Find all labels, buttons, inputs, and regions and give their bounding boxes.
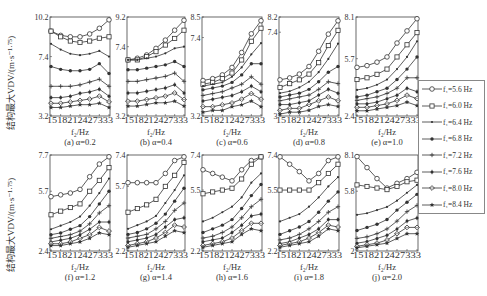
- legend-label: f₁=6.0 Hz: [443, 101, 472, 110]
- subplot-d: 151821242733337.48.2f₂/Hz(d) α=0.8: [268, 13, 343, 147]
- svg-text:7.7: 7.7: [39, 151, 49, 160]
- legend-item: f₁=5.6 Hz: [421, 83, 472, 95]
- svg-text:(e) α=1.0: (e) α=1.0: [371, 137, 402, 147]
- svg-text:f₂/Hz: f₂/Hz: [223, 262, 241, 272]
- legend-label: f₁=8.0 Hz: [443, 184, 472, 193]
- svg-text:5.7: 5.7: [39, 187, 49, 196]
- svg-text:1518212427333: 1518212427333: [199, 117, 266, 125]
- marker-star-icon: [421, 200, 443, 210]
- marker-dot-icon: [421, 134, 443, 144]
- svg-text:1518212427333: 1518212427333: [353, 252, 422, 260]
- svg-text:1518212427333: 1518212427333: [353, 117, 422, 125]
- svg-text:7.4: 7.4: [116, 151, 126, 160]
- marker-circle-icon: [421, 84, 443, 94]
- svg-text:f₂/Hz: f₂/Hz: [71, 262, 89, 272]
- svg-text:(g) α=1.4: (g) α=1.4: [140, 272, 173, 282]
- legend-item: f₁=8.0 Hz: [421, 182, 472, 194]
- legend-item: f₁=6.4 Hz: [421, 116, 472, 128]
- svg-text:f₂/Hz: f₂/Hz: [71, 127, 89, 137]
- svg-text:(d) α=0.8: (d) α=0.8: [293, 137, 325, 147]
- svg-text:2.2: 2.2: [116, 247, 126, 256]
- svg-text:3.2: 3.2: [116, 112, 126, 121]
- svg-text:3.2: 3.2: [39, 112, 49, 121]
- svg-text:f₂/Hz: f₂/Hz: [147, 262, 165, 272]
- svg-text:(i) α=1.8: (i) α=1.8: [294, 272, 324, 282]
- svg-text:1518212427333: 1518212427333: [276, 117, 343, 125]
- legend-item: f₁=6.0 Hz: [421, 100, 472, 112]
- svg-text:10.2: 10.2: [35, 13, 49, 22]
- legend-item: f₁=7.2 Hz: [421, 149, 472, 161]
- subplot-f: 15182124273332.45.77.7f₂/Hz(f) α=1.2: [39, 151, 114, 282]
- svg-text:2.2: 2.2: [191, 247, 201, 256]
- subplot-c: 15182124273333.27.48.5f₂/Hz(c) α=0.6: [191, 13, 266, 147]
- subplot-i: 15182124273332.25.57.4f₂/Hz(i) α=1.8: [268, 151, 343, 282]
- svg-text:f₂/Hz: f₂/Hz: [300, 262, 318, 272]
- svg-text:1518212427333: 1518212427333: [47, 117, 114, 125]
- marker-diamond-icon: [421, 183, 443, 193]
- svg-text:1518212427333: 1518212427333: [199, 252, 266, 260]
- svg-text:3: 3: [274, 112, 278, 121]
- y-axis-label-row1: 结构最大VDV/(m·s⁻¹·⁷⁵): [4, 36, 17, 130]
- legend-label: f₁=7.2 Hz: [443, 151, 472, 160]
- legend: f₁=5.6 Hz f₁=6.0 Hz f₁=6.4 Hz f₁=6.8 Hz …: [418, 80, 485, 214]
- svg-text:(a) α=0.2: (a) α=0.2: [64, 137, 95, 147]
- svg-text:5.5: 5.5: [191, 186, 201, 195]
- svg-text:f₂/Hz: f₂/Hz: [378, 127, 396, 137]
- legend-label: f₁=7.6 Hz: [443, 167, 472, 176]
- svg-text:(c) α=0.6: (c) α=0.6: [216, 137, 247, 147]
- legend-item: f₁=7.6 Hz: [421, 166, 472, 178]
- svg-text:5.8: 5.8: [345, 187, 355, 196]
- marker-dot-small-icon: [421, 117, 443, 127]
- svg-text:(j) α=2.0: (j) α=2.0: [372, 272, 402, 282]
- svg-text:1518212427333: 1518212427333: [276, 252, 343, 260]
- svg-text:1518212427333: 1518212427333: [47, 252, 114, 260]
- marker-square-icon: [421, 101, 443, 111]
- legend-label: f₁=6.8 Hz: [443, 134, 472, 143]
- legend-item: f₁=8.4 Hz: [421, 199, 472, 211]
- legend-label: f₁=6.4 Hz: [443, 118, 472, 127]
- svg-text:7.4: 7.4: [191, 34, 201, 43]
- svg-text:f₂/Hz: f₂/Hz: [223, 127, 241, 137]
- svg-text:5.5: 5.5: [268, 186, 278, 195]
- figure-canvas: 15182124273333.27.410.2f₂/Hz(a) α=0.2151…: [0, 0, 487, 296]
- svg-text:f₂/Hz: f₂/Hz: [300, 127, 318, 137]
- svg-text:5.7: 5.7: [116, 182, 126, 191]
- svg-text:8.2: 8.2: [268, 13, 278, 22]
- svg-text:2: 2: [351, 247, 355, 256]
- svg-text:f₂/Hz: f₂/Hz: [378, 262, 396, 272]
- svg-text:f₂/Hz: f₂/Hz: [147, 127, 165, 137]
- svg-text:8.1: 8.1: [345, 13, 355, 22]
- subplot-e: 15182124273332.45.78.1f₂/Hz(e) α=1.0: [345, 13, 422, 147]
- svg-text:7.4: 7.4: [268, 151, 278, 160]
- svg-text:7.4: 7.4: [116, 43, 126, 52]
- subplot-h: 15182124273332.25.57.4f₂/Hz(h) α=1.6: [191, 151, 266, 282]
- y-axis-label-row2: 结构最大VDV/(m·s⁻¹·⁷⁵): [4, 178, 17, 272]
- legend-item: f₁=6.8 Hz: [421, 133, 472, 145]
- svg-text:(b) α=0.4: (b) α=0.4: [140, 137, 173, 147]
- marker-dot-star-icon: [421, 167, 443, 177]
- svg-text:3.2: 3.2: [191, 112, 201, 121]
- svg-text:8.1: 8.1: [345, 151, 355, 160]
- legend-label: f₁=8.4 Hz: [443, 200, 472, 209]
- svg-text:9.2: 9.2: [116, 13, 126, 22]
- svg-text:7.4: 7.4: [268, 28, 278, 37]
- svg-text:7.4: 7.4: [191, 151, 201, 160]
- legend-label: f₁=5.6 Hz: [443, 85, 472, 94]
- svg-text:5.7: 5.7: [345, 55, 355, 64]
- subplot-a: 15182124273333.27.410.2f₂/Hz(a) α=0.2: [35, 13, 114, 147]
- svg-text:2.4: 2.4: [39, 247, 49, 256]
- subplot-j: 151821242733325.88.1f₂/Hz(j) α=2.0: [345, 151, 422, 282]
- subplot-g: 15182124273332.25.77.4f₂/Hz(g) α=1.4: [116, 151, 189, 282]
- svg-text:7.4: 7.4: [39, 53, 49, 62]
- svg-text:8.5: 8.5: [191, 13, 201, 22]
- svg-text:1518212427333: 1518212427333: [124, 252, 189, 260]
- svg-text:(f) α=1.2: (f) α=1.2: [65, 272, 96, 282]
- svg-text:2.2: 2.2: [268, 247, 278, 256]
- marker-plus-icon: [421, 150, 443, 160]
- svg-text:2.4: 2.4: [345, 112, 355, 121]
- svg-text:(h) α=1.6: (h) α=1.6: [216, 272, 248, 282]
- subplot-b: 15182124273333.27.49.2f₂/Hz(b) α=0.4: [116, 13, 189, 147]
- svg-text:1518212427333: 1518212427333: [124, 117, 189, 125]
